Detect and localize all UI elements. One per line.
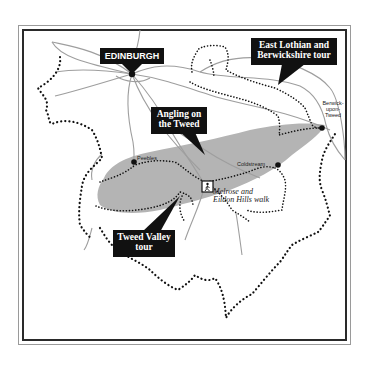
berwick-dot — [319, 125, 325, 131]
edinburgh-label: EDINBURGH — [100, 48, 164, 64]
peebles-dot — [131, 159, 137, 165]
peebles-label: Peebles — [137, 155, 157, 161]
angling-on-tweed-label: Angling on the Tweed — [151, 107, 207, 134]
coldstream-label: Coldstream — [237, 161, 265, 167]
east-lothian-tour-label: East Lothian and Berwickshire tour — [251, 38, 337, 65]
hiker-icon — [202, 181, 213, 192]
east-lothian-pointer — [278, 64, 305, 85]
melrose-eildon-walk-label: Melrose and Eildon Hills walk — [213, 188, 269, 205]
tweed-valley-tour-label: Tweed Valley tour — [113, 230, 175, 257]
berwick-label: Berwick- upon- Tweed — [318, 100, 348, 118]
coldstream-dot — [275, 162, 281, 168]
